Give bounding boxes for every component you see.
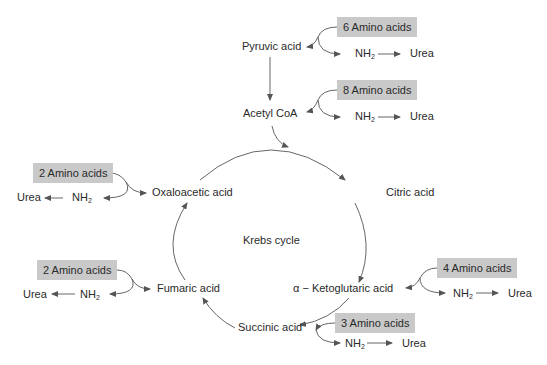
nh2-label-fumaric: NH2 [80, 288, 100, 304]
metabolite-pyruvic-acid: Pyruvic acid [242, 40, 301, 53]
urea-label-fumaric: Urea [23, 288, 47, 301]
nh2-label-ketoglutaric: NH2 [453, 287, 473, 303]
urea-label-pyruvic: Urea [410, 47, 434, 60]
amino-acids-box-oxaloacetic: 2 Amino acids [33, 163, 113, 183]
nh-text: NH [453, 287, 469, 299]
subscript: 2 [469, 293, 473, 300]
nh-text: NH [72, 191, 88, 203]
amino-acids-box-acetyl: 8 Amino acids [337, 80, 417, 100]
metabolite-succinic-acid: Succinic acid [238, 321, 302, 334]
metabolite-fumaric-acid: Fumaric acid [157, 282, 220, 295]
cycle-title: Krebs cycle [243, 234, 300, 247]
nh-text: NH [355, 47, 371, 59]
subscript: 2 [361, 343, 365, 350]
subscript: 2 [88, 197, 92, 204]
alpha-prefix: α − [293, 282, 309, 294]
ketoglutaric-text: Ketoglutaric acid [312, 282, 393, 294]
amino-acids-box-ketoglutaric: 4 Amino acids [437, 258, 517, 278]
subscript: 2 [96, 294, 100, 301]
nh2-label-acetyl: NH2 [355, 110, 375, 126]
nh2-label-succinic: NH2 [345, 337, 365, 353]
subscript: 2 [371, 116, 375, 123]
amino-acids-box-fumaric: 2 Amino acids [37, 260, 117, 280]
metabolite-citric-acid: Citric acid [386, 186, 434, 199]
metabolite-acetyl-coa: Acetyl CoA [243, 107, 297, 120]
nh-text: NH [80, 288, 96, 300]
metabolite-oxaloacetic-acid: Oxaloacetic acid [152, 186, 233, 199]
amino-acids-box-succinic: 3 Amino acids [335, 313, 415, 333]
urea-label-acetyl: Urea [410, 110, 434, 123]
metabolite-alpha-ketoglutaric-acid: α − Ketoglutaric acid [293, 282, 393, 295]
nh-text: NH [355, 110, 371, 122]
nh2-label-pyruvic: NH2 [355, 47, 375, 63]
nh-text: NH [345, 337, 361, 349]
nh2-label-oxaloacetic: NH2 [72, 191, 92, 207]
subscript: 2 [371, 53, 375, 60]
amino-acids-box-pyruvic: 6 Amino acids [337, 17, 417, 37]
urea-label-oxaloacetic: Urea [17, 191, 41, 204]
urea-label-ketoglutaric: Urea [508, 287, 532, 300]
urea-label-succinic: Urea [402, 337, 426, 350]
